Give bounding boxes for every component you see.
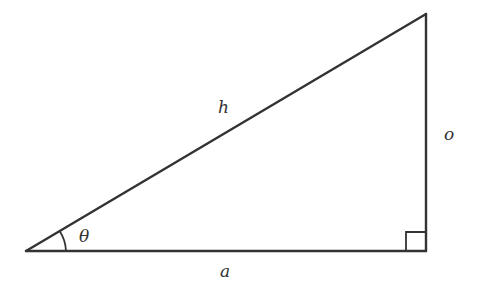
markers <box>60 231 426 251</box>
right-angle-marker <box>406 232 426 251</box>
adjacent-label: a <box>220 261 230 281</box>
hypotenuse-side <box>26 14 426 251</box>
hypotenuse-label: h <box>218 97 229 117</box>
angle-arc <box>60 231 66 251</box>
opposite-label: o <box>444 124 454 144</box>
right-triangle-diagram: θ h o a <box>0 0 477 293</box>
angle-label: θ <box>79 226 89 246</box>
triangle <box>26 14 426 251</box>
